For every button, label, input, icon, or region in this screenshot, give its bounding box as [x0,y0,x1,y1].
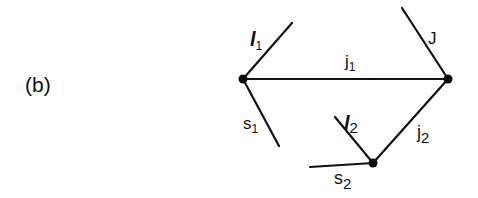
label-j1: j1 [344,52,356,74]
edge-j2 [373,79,448,163]
vertex-right [444,75,453,84]
edge-J [402,8,448,79]
label-l1: l1 [250,28,263,53]
label-s1: s1 [243,114,259,136]
coupling-diagram: (b) l1 s1 j1 [0,0,478,198]
edge-s1 [243,79,279,146]
edges [243,8,448,167]
edge-labels: l1 s1 j1 J j2 l2 s2 [243,28,437,192]
vertex-bottom [369,159,378,168]
label-J: J [428,29,437,48]
panel-label: (b) [25,73,51,96]
label-l2: l2 [344,112,358,136]
label-j2: j2 [416,122,429,146]
diagram-figure: (b) l1 s1 j1 [0,0,478,198]
vertex-left [239,75,248,84]
edge-s2 [310,163,373,167]
label-s2: s2 [334,168,351,192]
